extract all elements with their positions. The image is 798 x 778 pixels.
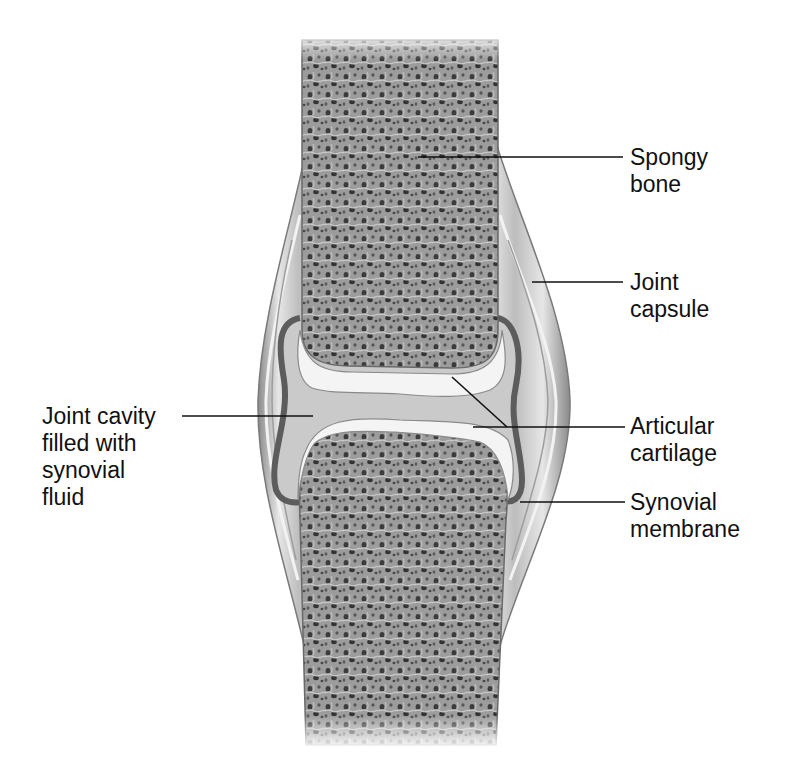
joint-diagram [0,0,798,778]
label-line: bone [630,171,708,198]
label-line: Spongy [630,144,708,171]
label-joint-cavity: Joint cavity filled with synovial fluid [42,403,156,511]
label-line: cartilage [630,440,717,467]
label-articular-cartilage: Articular cartilage [630,413,717,467]
label-line: fluid [42,484,156,511]
label-line: Joint cavity [42,403,156,430]
label-line: filled with [42,430,156,457]
label-line: capsule [630,296,709,323]
upper-bone [298,30,505,397]
label-line: membrane [630,516,740,543]
label-synovial-membrane: Synovial membrane [630,489,740,543]
label-spongy-bone: Spongy bone [630,144,708,198]
label-line: Articular [630,413,717,440]
label-line: Joint [630,269,709,296]
label-line: synovial [42,457,156,484]
lower-bone [298,419,513,750]
label-line: Synovial [630,489,740,516]
label-joint-capsule: Joint capsule [630,269,709,323]
